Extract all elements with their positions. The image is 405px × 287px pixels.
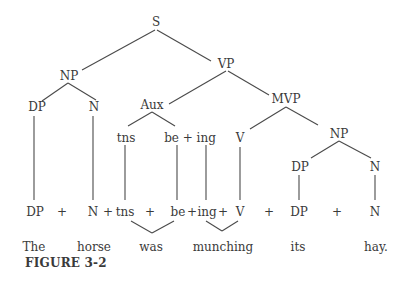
node-dp-object: DP bbox=[291, 161, 309, 173]
terminal-plus: + bbox=[57, 206, 67, 218]
sentence-word: munching bbox=[193, 241, 254, 253]
terminal-plus: + bbox=[264, 206, 274, 218]
terminal-plus: + bbox=[103, 206, 113, 218]
terminal-item: DP bbox=[26, 206, 44, 218]
sentence-word: its bbox=[291, 241, 306, 253]
node-np-subject: NP bbox=[60, 70, 79, 82]
node-np-object: NP bbox=[330, 128, 349, 140]
node-vp: VP bbox=[218, 58, 235, 70]
node-aux: Aux bbox=[140, 99, 163, 111]
sentence-word: horse bbox=[77, 241, 111, 253]
node-be-ing: be + ing bbox=[164, 132, 216, 144]
terminal-item: V bbox=[236, 206, 245, 218]
terminal-plus: + bbox=[187, 206, 197, 218]
terminal-plus: + bbox=[145, 206, 155, 218]
node-mvp: MVP bbox=[271, 93, 300, 105]
figure-caption: FIGURE 3-2 bbox=[25, 256, 107, 270]
terminal-plus: + bbox=[332, 206, 342, 218]
node-tns: tns bbox=[117, 132, 136, 144]
node-v: V bbox=[236, 132, 245, 144]
terminal-item: N bbox=[88, 206, 99, 218]
node-n-object: N bbox=[370, 161, 381, 173]
terminal-plus: + bbox=[218, 206, 228, 218]
sentence-word: The bbox=[23, 241, 46, 253]
terminal-item: tns bbox=[116, 206, 135, 218]
terminal-item: be bbox=[171, 206, 186, 218]
node-dp-subject: DP bbox=[28, 101, 46, 113]
terminal-item: N bbox=[370, 206, 381, 218]
node-s: S bbox=[152, 16, 160, 28]
terminal-item: ing bbox=[197, 206, 216, 218]
sentence-word: hay. bbox=[364, 241, 388, 253]
sentence-word: was bbox=[139, 241, 163, 253]
terminal-item: DP bbox=[290, 206, 308, 218]
node-n-subject: N bbox=[89, 101, 100, 113]
